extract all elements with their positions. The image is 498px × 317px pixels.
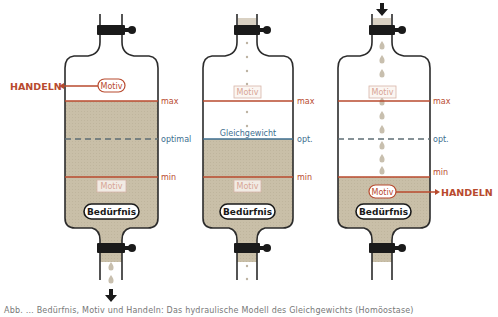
motiv-label-faded: Motiv xyxy=(237,182,259,191)
valve-top-icon xyxy=(97,25,136,35)
max-label: max xyxy=(297,97,315,106)
motiv-label-faded: Motiv xyxy=(372,88,394,97)
motiv-label-faded: Motiv xyxy=(101,182,123,191)
min-label: min xyxy=(161,173,176,182)
min-label: min xyxy=(433,168,448,177)
valve-bottom-icon xyxy=(369,243,406,253)
bottle-middle: max opt. min Gleichgewicht Motiv Motiv B… xyxy=(200,14,315,280)
valve-top-icon xyxy=(369,25,406,35)
motiv-label: Motiv xyxy=(101,82,123,91)
max-label: max xyxy=(433,97,451,106)
arrow-down-icon xyxy=(105,289,117,302)
beduerfnis-label: Bedürfnis xyxy=(87,207,136,217)
valve-bottom-icon xyxy=(97,243,136,253)
motiv-label-faded: Motiv xyxy=(237,88,259,97)
beduerfnis-label: Bedürfnis xyxy=(223,207,272,217)
bottle-right: max opt. min Motiv HANDELN Motiv Bedürfn… xyxy=(335,3,493,280)
handeln-label: HANDELN xyxy=(441,187,493,198)
opt-label: opt. xyxy=(297,135,313,144)
drops-inflow xyxy=(379,41,384,175)
handeln-label: HANDELN xyxy=(10,81,62,92)
optimal-label: optimal xyxy=(161,135,191,144)
max-label: max xyxy=(161,97,179,106)
drop-icon xyxy=(108,275,113,284)
drop-icon xyxy=(108,262,113,271)
opt-label: opt. xyxy=(433,135,449,144)
figure-caption: Abb. … Bedürfnis, Motiv und Handeln: Das… xyxy=(4,306,414,315)
valve-top-icon xyxy=(234,25,271,35)
arrow-right-icon xyxy=(435,189,440,195)
valve-bottom-icon xyxy=(234,243,271,253)
arrow-down-icon xyxy=(376,3,388,16)
min-label: min xyxy=(297,173,312,182)
gleichgewicht-label: Gleichgewicht xyxy=(220,129,276,138)
motiv-label: Motiv xyxy=(372,188,394,197)
bottle-left: max optimal min HANDELN Motiv Motiv Bedü… xyxy=(10,14,191,302)
beduerfnis-label: Bedürfnis xyxy=(359,207,408,217)
